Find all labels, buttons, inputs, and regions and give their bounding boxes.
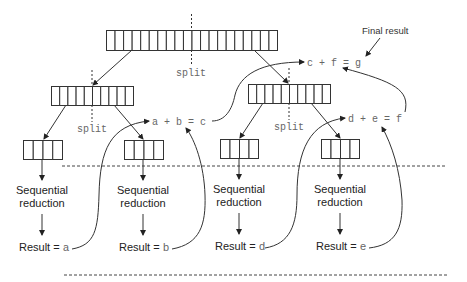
- array-cell: [240, 140, 250, 159]
- array-cell: [115, 31, 124, 51]
- edge-mid-left-to-leaf-2: [114, 105, 143, 139]
- result-label-4: Result = e: [316, 240, 366, 253]
- array-cell: [249, 140, 259, 159]
- leaf-array-2: [125, 141, 164, 160]
- equation-a-plus-b: a + b = c: [152, 117, 206, 128]
- array-cell: [192, 31, 201, 51]
- edge-mid-right-to-leaf-4: [311, 103, 340, 138]
- array-cell: [53, 141, 63, 160]
- array-cell: [265, 85, 273, 104]
- array-cell: [290, 85, 298, 104]
- array-cell: [24, 141, 34, 160]
- split-label-top: split: [176, 68, 206, 79]
- array-cell: [257, 85, 265, 104]
- array-cell: [183, 31, 192, 51]
- split-label-mid-right: split: [274, 122, 304, 133]
- array-cell: [221, 140, 231, 159]
- edge-mid-right-to-leaf-3: [240, 103, 263, 138]
- step-label-line1: Sequential: [117, 184, 169, 196]
- top-array: [107, 31, 278, 51]
- step-label-line2: reduction: [19, 197, 64, 209]
- equation-d-plus-e: d + e = f: [348, 114, 402, 125]
- edge-top-to-mid-right: [254, 50, 288, 83]
- array-cell: [209, 31, 218, 51]
- curve-b-to-sum-ab: [172, 128, 205, 249]
- result-label-2: Result = b: [119, 241, 169, 254]
- array-cell: [93, 87, 101, 106]
- array-cell: [101, 87, 109, 106]
- array-cell: [125, 141, 135, 160]
- array-cell: [117, 87, 125, 106]
- array-cell: [166, 31, 175, 51]
- array-cell: [269, 31, 278, 51]
- array-cell: [260, 31, 269, 51]
- step-label-line1: Sequential: [314, 183, 366, 195]
- edge-top-to-mid-left: [93, 50, 132, 85]
- array-cell: [350, 140, 360, 159]
- leaf-column-4: Sequential reduction Result = e: [314, 158, 366, 253]
- array-cell: [68, 87, 76, 106]
- array-cell: [306, 85, 314, 104]
- array-cell: [149, 31, 158, 51]
- array-cell: [314, 85, 322, 104]
- array-cell: [76, 87, 84, 106]
- curve-e-to-sum-de: [369, 127, 402, 248]
- array-cell: [249, 85, 257, 104]
- step-label-line1: Sequential: [213, 183, 265, 195]
- array-cell: [154, 141, 164, 160]
- split-label-mid-left: split: [77, 124, 107, 135]
- step-label-line2: reduction: [216, 196, 261, 208]
- curve-f-to-sum-cf: [343, 68, 406, 112]
- array-cell: [107, 31, 116, 51]
- array-cell: [273, 85, 281, 104]
- array-cell: [158, 31, 167, 51]
- array-cell: [201, 31, 210, 51]
- leaf-array-4: [322, 140, 360, 159]
- leaf-column-1: Sequential reduction Result = a: [16, 159, 70, 254]
- array-cell: [235, 31, 244, 51]
- array-cell: [281, 85, 289, 104]
- array-cell: [84, 87, 92, 106]
- leaf-array-1: [24, 141, 63, 160]
- result-label-1: Result = a: [19, 241, 70, 254]
- step-label-line2: reduction: [317, 196, 362, 208]
- fork-join-reduction-diagram: split split split Sequential reduction R…: [0, 0, 467, 282]
- final-result-pointer-arrow: [366, 38, 380, 56]
- array-cell: [125, 87, 133, 106]
- array-cell: [331, 140, 341, 159]
- array-cell: [141, 31, 150, 51]
- equation-c-plus-f: c + f = g: [307, 58, 361, 69]
- array-cell: [175, 31, 184, 51]
- array-cell: [243, 31, 252, 51]
- array-cell: [33, 141, 43, 160]
- mid-array-left: [52, 87, 134, 106]
- leaf-array-3: [221, 140, 259, 159]
- leaf-column-2: Sequential reduction Result = b: [117, 159, 169, 254]
- array-cell: [60, 87, 68, 106]
- edge-mid-left-to-leaf-1: [44, 105, 66, 139]
- array-cell: [252, 31, 261, 51]
- final-result-annotation: Final result: [362, 25, 409, 36]
- array-cell: [226, 31, 235, 51]
- step-label-line2: reduction: [120, 197, 165, 209]
- mid-array-right: [249, 85, 331, 104]
- array-cell: [132, 31, 141, 51]
- array-cell: [322, 85, 330, 104]
- step-label-line1: Sequential: [16, 184, 68, 196]
- array-cell: [109, 87, 117, 106]
- result-label-3: Result = d: [215, 240, 265, 253]
- leaf-column-3: Sequential reduction Result = d: [213, 158, 265, 253]
- array-cell: [322, 140, 332, 159]
- array-cell: [134, 141, 144, 160]
- array-cell: [43, 141, 53, 160]
- array-cell: [341, 140, 351, 159]
- array-cell: [52, 87, 60, 106]
- array-cell: [144, 141, 154, 160]
- array-cell: [298, 85, 306, 104]
- array-cell: [230, 140, 240, 159]
- array-cell: [124, 31, 133, 51]
- array-cell: [218, 31, 227, 51]
